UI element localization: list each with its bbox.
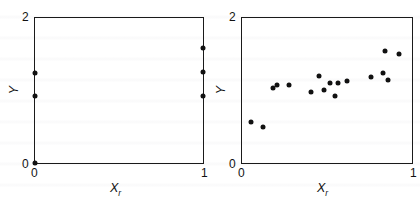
data-point: [201, 46, 206, 51]
data-point: [336, 80, 341, 85]
y-tick-label-top-left: 2: [22, 11, 29, 23]
x-tick-label-zero-left: 0: [31, 167, 38, 179]
data-point: [386, 78, 391, 83]
data-point: [249, 120, 254, 125]
data-point: [308, 89, 313, 94]
y-tick-label-bottom-left: 0: [22, 158, 29, 170]
data-point: [261, 125, 266, 130]
data-point: [317, 74, 322, 79]
x-axis-title-left: Xr: [110, 181, 121, 198]
x-axis-title-subscript-right: r: [325, 188, 328, 198]
data-point: [33, 93, 38, 98]
data-point: [33, 71, 38, 76]
data-point: [328, 80, 333, 85]
y-tick-label-top-right: 2: [229, 11, 236, 23]
x-axis-title-right: Xr: [317, 181, 328, 198]
data-point: [332, 93, 337, 98]
data-point: [33, 161, 38, 166]
data-point: [382, 49, 387, 54]
plot-area-right: [242, 18, 412, 163]
data-point: [201, 93, 206, 98]
data-point: [286, 83, 291, 88]
figure-two-scatter-panels: 2 0 0 1 Y Xr 2 0 0 1 Y Xr: [0, 0, 420, 199]
data-point: [369, 75, 374, 80]
y-tick-label-bottom-right: 0: [229, 158, 236, 170]
data-point: [381, 71, 386, 76]
data-point: [397, 51, 402, 56]
data-point: [274, 83, 279, 88]
x-tick-label-one-left: 1: [201, 167, 208, 179]
panel-left: 2 0 0 1 Y Xr: [0, 0, 210, 199]
x-tick-label-zero-right: 0: [238, 167, 245, 179]
plot-area-left: [35, 18, 203, 163]
data-point: [345, 78, 350, 83]
x-tick-label-one-right: 1: [410, 167, 417, 179]
data-point: [201, 70, 206, 75]
plot-frame-right: [241, 17, 413, 164]
panel-right: 2 0 0 1 Y Xr: [210, 0, 420, 199]
x-axis-title-subscript-left: r: [118, 188, 121, 198]
data-point: [322, 87, 327, 92]
plot-frame-left: [34, 17, 204, 164]
y-axis-title-right: Y: [214, 75, 228, 105]
y-axis-title-left: Y: [7, 75, 21, 105]
